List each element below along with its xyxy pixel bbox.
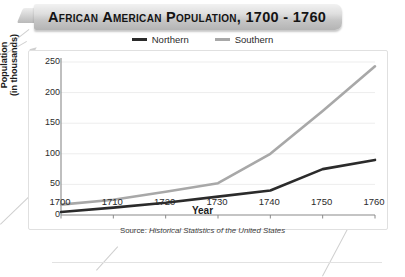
source-note: Source: Historical Statistics of the Uni… <box>0 226 405 235</box>
y-tick-label: 200 <box>34 87 60 97</box>
y-axis-title-line1: Population <box>0 34 9 96</box>
callout-line-bottom-left <box>96 246 118 271</box>
y-tick-label: 50 <box>34 178 60 188</box>
y-tick-label: 100 <box>34 148 60 158</box>
legend-item-northern[interactable]: Northern <box>132 34 189 45</box>
page-divider-rule <box>52 262 382 263</box>
x-axis-title: Year <box>0 205 405 216</box>
y-axis-title: Population (in thousands) <box>0 34 19 96</box>
y-axis-title-line2: (in thousands) <box>9 34 19 96</box>
chart-legend: Northern Southern <box>0 34 405 45</box>
y-tick-label: 250 <box>34 56 60 66</box>
legend-swatch-northern <box>132 38 147 41</box>
source-prefix: Source: <box>120 226 149 235</box>
legend-swatch-southern <box>215 38 230 41</box>
legend-label-southern: Southern <box>235 34 274 45</box>
legend-item-southern[interactable]: Southern <box>215 34 274 45</box>
page-title: African American Population, 1700 - 1760 <box>48 4 326 30</box>
title-banner: African American Population, 1700 - 1760 <box>34 4 342 32</box>
legend-label-northern: Northern <box>152 34 189 45</box>
y-tick-label: 150 <box>34 117 60 127</box>
source-text: Historical Statistics of the United Stat… <box>149 226 285 235</box>
